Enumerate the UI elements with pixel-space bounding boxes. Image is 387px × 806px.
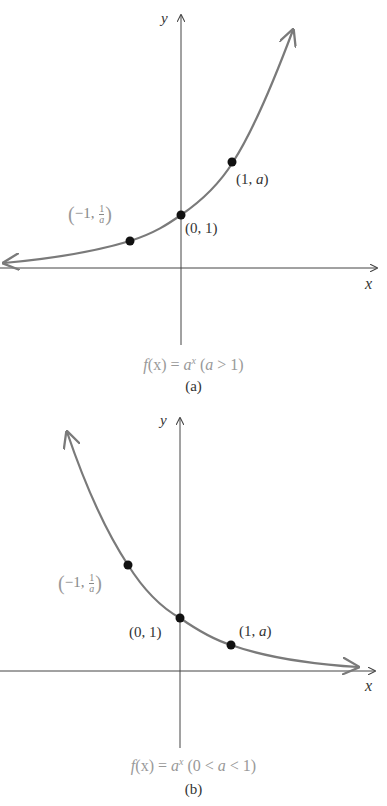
chart-b-plot (0, 400, 387, 806)
chart-panel-a: y x (−1, 1a) (0, 1) (1, a) f(x) = ax (a … (0, 0, 387, 400)
caption: (a) (0, 378, 387, 395)
function-formula: f(x) = ax (0 < a < 1) (0, 756, 387, 775)
point-0 (176, 614, 185, 623)
function-formula: f(x) = ax (a > 1) (0, 355, 387, 374)
exponential-curve (67, 432, 358, 667)
y-axis-label: y (160, 412, 167, 429)
exponential-curve (4, 30, 293, 263)
point-1 (228, 158, 237, 167)
point-label-neg1: (−1, 1a) (58, 572, 102, 595)
x-axis-label: x (365, 677, 372, 695)
point-1 (227, 641, 236, 650)
chart-panel-b: y x (−1, 1a) (0, 1) (1, a) f(x) = ax (0 … (0, 400, 387, 806)
point-label-1: (1, a) (239, 623, 272, 640)
y-axis-label: y (161, 10, 168, 27)
point-neg1 (126, 237, 135, 246)
point-label-0: (0, 1) (129, 624, 162, 641)
point-label-0: (0, 1) (185, 220, 218, 237)
chart-a-plot (0, 0, 387, 400)
x-axis-label: x (365, 275, 372, 293)
point-label-neg1: (−1, 1a) (68, 203, 112, 226)
point-neg1 (124, 561, 133, 570)
point-label-1: (1, a) (236, 171, 269, 188)
point-0 (177, 211, 186, 220)
caption: (b) (0, 781, 387, 798)
